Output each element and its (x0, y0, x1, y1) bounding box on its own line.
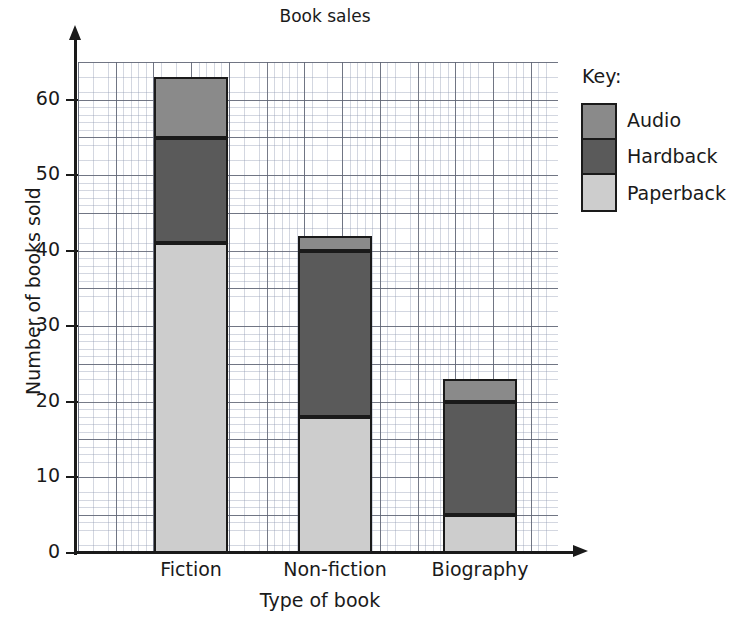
x-axis-line (75, 551, 575, 554)
bar-segment-hardback (443, 402, 517, 515)
bar-biography (443, 379, 517, 553)
bar-segment-paperback (298, 417, 372, 553)
book-sales-chart: Book sales 0102030405060 Number of books… (0, 0, 733, 621)
bar-fiction (154, 77, 228, 553)
bar-segment-paperback (154, 243, 228, 553)
bar-segment-hardback (298, 251, 372, 417)
legend-label-audio: Audio (627, 109, 681, 131)
x-axis-arrow (573, 545, 588, 557)
legend-swatch-stack (581, 103, 617, 212)
y-tick-60 (66, 99, 78, 101)
chart-title: Book sales (200, 6, 450, 26)
legend-swatch-paperback (583, 175, 615, 210)
plot-area (78, 62, 558, 553)
y-axis-arrow (69, 25, 81, 40)
y-axis-title: Number of books sold (22, 91, 44, 491)
bar-segment-audio (298, 236, 372, 251)
bar-segment-hardback (154, 138, 228, 244)
legend-label-hardback: Hardback (627, 145, 718, 167)
legend-swatch-hardback (583, 140, 615, 175)
bar-segment-audio (154, 77, 228, 137)
y-tick-30 (66, 325, 78, 327)
x-category-label-biography: Biography (390, 558, 570, 580)
x-axis-title: Type of book (150, 589, 490, 611)
y-tick-label-0: 0 (0, 540, 60, 562)
legend-swatch-audio (583, 105, 615, 140)
legend-label-paperback: Paperback (627, 182, 726, 204)
y-tick-40 (66, 250, 78, 252)
bar-segment-audio (443, 379, 517, 402)
bar-segment-paperback (443, 515, 517, 553)
bar-non-fiction (298, 236, 372, 553)
y-tick-0 (66, 552, 78, 554)
legend-title: Key: (582, 65, 621, 87)
y-tick-50 (66, 174, 78, 176)
y-tick-20 (66, 401, 78, 403)
y-tick-10 (66, 476, 78, 478)
